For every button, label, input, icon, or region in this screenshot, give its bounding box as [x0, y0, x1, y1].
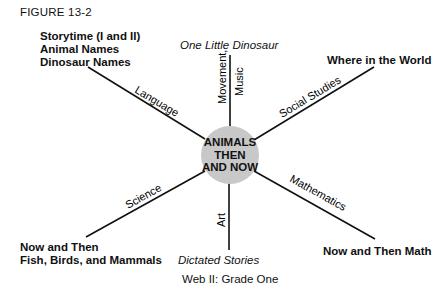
spoke-line-science — [86, 171, 205, 237]
activity-mathematics: Now and Then Math — [323, 245, 432, 258]
center-line: AND NOW — [201, 161, 259, 174]
activity-line: Storytime (I and II) — [40, 30, 140, 43]
spoke-label-art: Art — [215, 213, 227, 227]
activity-line: Dinosaur Names — [40, 56, 140, 69]
spoke-line-mathematics — [254, 171, 375, 239]
center-line: ANIMALS — [201, 136, 259, 149]
figure-label: FIGURE 13-2 — [20, 6, 92, 18]
spoke-label-social-studies: Social Studies — [277, 73, 343, 119]
center-line: THEN — [201, 149, 259, 162]
activity-social-studies: Where in the World — [327, 54, 432, 67]
spoke-label-music: Music — [233, 67, 245, 96]
activity-art: Dictated Stories — [178, 254, 259, 266]
activity-line: Now and Then — [20, 241, 162, 254]
spoke-line-social-studies — [254, 67, 374, 140]
activity-science: Now and Then Fish, Birds, and Mammals — [20, 241, 162, 267]
activity-movement-music: One Little Dinosaur — [180, 39, 278, 51]
center-topic: ANIMALS THEN AND NOW — [201, 136, 259, 174]
spoke-label-movement: Movement, — [216, 50, 228, 104]
activity-line: Animal Names — [40, 43, 140, 56]
activity-line: Fish, Birds, and Mammals — [20, 254, 162, 267]
activity-language: Storytime (I and II) Animal Names Dinosa… — [40, 30, 140, 69]
spoke-line-language — [88, 67, 205, 139]
spoke-label-language: Language — [133, 83, 181, 118]
spoke-label-science: Science — [123, 181, 163, 210]
figure-caption: Web II: Grade One — [182, 273, 278, 285]
